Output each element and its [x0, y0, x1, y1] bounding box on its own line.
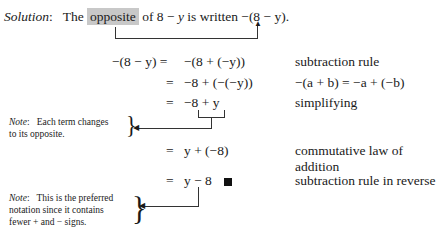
note1-arrow-line [138, 128, 212, 129]
note-2-line2: notation since it contains [9, 205, 104, 216]
step-3-rhs: −8 + y [184, 95, 219, 111]
qed-square-icon [224, 178, 232, 186]
step-1-lhs: −(8 − y) = [112, 54, 167, 70]
note-1-text1: Each term changes [37, 117, 109, 127]
step-1-rhs: −(8 + (−y)) [184, 54, 245, 70]
note-2-line3: fewer + and − signs. [9, 217, 86, 228]
step-4-reason: commutative law of [295, 143, 403, 159]
solution-label: Solution [4, 9, 49, 24]
arrow-up-icon: ▲ [254, 20, 262, 28]
note-2-line1: Note: This is the preferred [9, 193, 113, 204]
intro-expr: −(8 − y). [241, 9, 289, 24]
solution-line: Solution: The opposite of 8 − y is writt… [4, 9, 289, 25]
step-3-lhs: = [166, 95, 174, 111]
note-2-brace: } [132, 192, 146, 225]
intro-before: The [63, 9, 84, 24]
step-5-lhs: = [166, 173, 174, 189]
step-4-rhs: y + (−8) [184, 143, 228, 159]
step-4-lhs: = [166, 143, 174, 159]
highlight-opposite: opposite [87, 8, 139, 25]
note2-arrow-line [144, 206, 199, 207]
intro-mid: of 8 − [142, 9, 174, 24]
intro-after: is written [187, 9, 238, 24]
step-1-reason: subtraction rule [295, 54, 379, 70]
step-2-rhs: −8 + (−(−y)) [184, 75, 253, 91]
note-1-line1: Note: Each term changes [9, 117, 108, 128]
note-2-text1: This is the preferred [37, 193, 114, 203]
note-1-label: Note [9, 117, 27, 127]
intro-var: y [178, 9, 184, 24]
note-1-line2: to its opposite. [9, 129, 65, 140]
note2-stem [198, 187, 199, 207]
connector-horizontal [115, 38, 258, 39]
step-3-reason: simplifying [295, 95, 357, 111]
step-2-reason: −(a + b) = −a + (−b) [295, 75, 404, 91]
note-2-label: Note [9, 193, 27, 203]
step-5-reason: subtraction rule in reverse [295, 173, 436, 189]
step-2-lhs: = [166, 75, 174, 91]
note-1-brace: } [126, 113, 137, 137]
